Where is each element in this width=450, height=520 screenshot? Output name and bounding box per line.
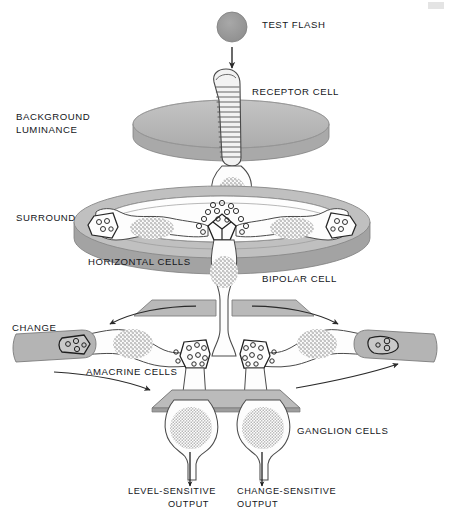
label-receptor-cell: RECEPTOR CELL [252, 86, 339, 97]
label-change: CHANGE [12, 322, 56, 333]
label-bipolar-cell: BIPOLAR CELL [262, 273, 337, 284]
ganglion-cell-left-nucleus [170, 407, 212, 449]
change-terminal-left-synapse [59, 335, 90, 354]
figure-root: TEST FLASH RECEPTOR CELL BACKGROUND LUMI… [0, 0, 450, 520]
bipolar-plate-right [232, 300, 314, 316]
label-change-sensitive-output-line2: OUTPUT [237, 499, 278, 509]
bipolar-cell-nucleus [210, 256, 238, 288]
horizontal-cell-left-nucleus [130, 217, 174, 239]
page-corner-artifact [428, 2, 444, 9]
test-flash-group [217, 12, 247, 68]
test-flash-circle [217, 12, 247, 42]
retinal-circuit-diagram: TEST FLASH RECEPTOR CELL BACKGROUND LUMI… [0, 0, 450, 520]
label-change-sensitive-output-line1: CHANGE-SENSITIVE [237, 486, 336, 496]
horizontal-cell-right-nucleus [270, 217, 314, 239]
label-background-luminance-line2: LUMINANCE [16, 124, 77, 135]
label-test-flash: TEST FLASH [262, 19, 325, 30]
change-outflow-arrow-right [296, 364, 398, 388]
bipolar-plate-left [134, 300, 216, 316]
change-terminal-right-synapse [368, 336, 398, 353]
label-background-luminance-line1: BACKGROUND [16, 111, 90, 122]
ganglion-cells-group [165, 400, 290, 486]
ganglion-cell-right-nucleus [242, 407, 284, 449]
label-ganglion-cells: GANGLION CELLS [297, 425, 388, 436]
amacrine-cell-right-nucleus [297, 329, 337, 359]
label-level-sensitive-output-line1: LEVEL-SENSITIVE [128, 486, 216, 496]
label-amacrine-cells: AMACRINE CELLS [86, 366, 177, 377]
label-surround: SURROUND [16, 212, 76, 223]
bipolar-cell [210, 240, 238, 356]
label-horizontal-cells: HORIZONTAL CELLS [88, 256, 191, 267]
label-level-sensitive-output-line2: OUTPUT [168, 499, 209, 509]
amacrine-cell-left-nucleus [113, 329, 153, 359]
